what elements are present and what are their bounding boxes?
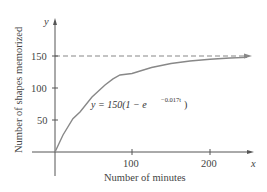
- equation-label: y = 150(1 − e: [90, 99, 147, 111]
- equation-exponent: −0.017t: [161, 96, 181, 103]
- x-axis-title: Number of minutes: [104, 172, 186, 183]
- equation-close: ): [184, 99, 187, 111]
- y-axis-title: Number of shapes memorized: [13, 26, 24, 153]
- y-tick-label-150: 150: [31, 51, 47, 62]
- x-axis-var: x: [250, 158, 256, 169]
- x-tick-label-100: 100: [123, 158, 139, 169]
- y-tick-label-50: 50: [37, 115, 48, 126]
- x-axis-arrow-icon: [247, 150, 254, 154]
- x-tick-label-200: 200: [201, 158, 217, 169]
- y-tick-label-100: 100: [31, 83, 47, 94]
- curve-line: [55, 57, 247, 152]
- y-axis-arrow-icon: [53, 18, 57, 25]
- chart: y x 150 100 50 100 200 Number of minutes…: [0, 0, 267, 192]
- y-axis-var: y: [43, 16, 49, 27]
